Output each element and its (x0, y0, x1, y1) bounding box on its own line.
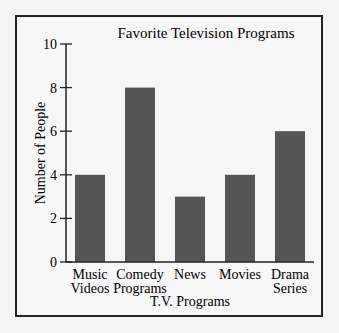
x-axis-label: T.V. Programs (150, 294, 230, 309)
x-tick-label: Movies (219, 267, 261, 282)
y-tick-label: 2 (50, 211, 57, 226)
y-tick-label: 8 (50, 81, 57, 96)
bar-movies (225, 175, 255, 262)
x-tick-label: Videos (71, 281, 110, 296)
y-tick-label: 6 (50, 124, 57, 139)
y-axis-label: Number of People (33, 102, 48, 205)
x-tick-label: Comedy (116, 267, 163, 282)
y-tick-label: 4 (50, 168, 57, 183)
x-tick-label: News (174, 267, 206, 282)
chart-title: Favorite Television Programs (118, 25, 295, 41)
bar-drama-series (275, 131, 305, 262)
bar-music-videos (75, 175, 105, 262)
y-tick-label: 0 (50, 255, 57, 270)
bar-news (175, 197, 205, 262)
bar-comedy-programs (125, 88, 155, 262)
bars (75, 88, 305, 262)
x-tick-label: Music (73, 267, 108, 282)
bar-chart: Favorite Television Programs 0246810 Mus… (0, 0, 339, 333)
x-tick-label: Series (273, 281, 307, 296)
y-tick-label: 10 (43, 37, 57, 52)
x-tick-labels: MusicVideosComedyProgramsNewsMoviesDrama… (71, 267, 310, 296)
x-tick-label: Drama (271, 267, 310, 282)
